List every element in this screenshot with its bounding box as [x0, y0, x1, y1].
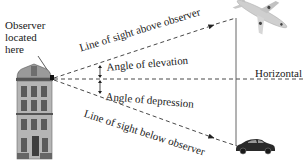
angle-of-elevation-diagram: Observer located here Line of sight abov… — [0, 0, 305, 166]
angle-elevation-marker — [98, 65, 102, 78]
observer-label-line-1: Observer — [5, 19, 65, 31]
building-icon — [16, 64, 54, 159]
car-icon — [236, 139, 275, 154]
observer-label: Observer located here — [5, 19, 65, 55]
observer-label-line-2: located — [5, 31, 65, 43]
observer-label-line-3: here — [5, 43, 65, 55]
angle-depression-marker — [98, 80, 102, 94]
horizontal-label: Horizontal — [255, 68, 302, 79]
airplane-icon — [228, 0, 295, 43]
